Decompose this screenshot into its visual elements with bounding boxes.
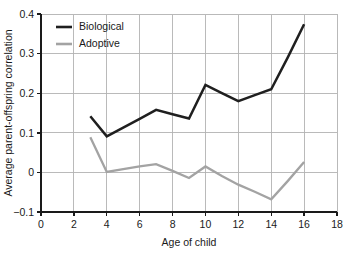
legend-label-adoptive: Adoptive bbox=[79, 37, 120, 49]
y-tick-label: 0 bbox=[28, 166, 34, 178]
x-tick-label: 2 bbox=[71, 218, 77, 230]
x-tick-label: 6 bbox=[137, 218, 143, 230]
x-tick-label: 12 bbox=[232, 218, 244, 230]
x-axis-title-group: Age of child bbox=[162, 236, 217, 248]
y-tick-label: −0.1 bbox=[13, 206, 34, 218]
x-tick-label: 4 bbox=[104, 218, 110, 230]
x-axis-title: Age of child bbox=[162, 236, 217, 248]
legend-label-biological: Biological bbox=[79, 20, 124, 32]
y-axis-title-group: Average parent-offspring correlation bbox=[2, 29, 14, 196]
x-tick-label: 14 bbox=[265, 218, 277, 230]
x-tick-label: 8 bbox=[170, 218, 176, 230]
chart-figure: 024681012141618−0.100.10.20.30.4 Age of … bbox=[0, 0, 347, 253]
x-tick-label: 16 bbox=[298, 218, 310, 230]
x-tick-label: 18 bbox=[331, 218, 343, 230]
x-tick-label: 0 bbox=[38, 218, 44, 230]
line-chart: 024681012141618−0.100.10.20.30.4 Age of … bbox=[0, 0, 347, 253]
y-tick-label: 0.4 bbox=[19, 8, 34, 20]
y-axis-title: Average parent-offspring correlation bbox=[2, 29, 14, 196]
y-tick-label: 0.2 bbox=[19, 87, 34, 99]
y-tick-label: 0.3 bbox=[19, 47, 34, 59]
y-tick-label: 0.1 bbox=[19, 127, 34, 139]
x-tick-label: 10 bbox=[200, 218, 212, 230]
